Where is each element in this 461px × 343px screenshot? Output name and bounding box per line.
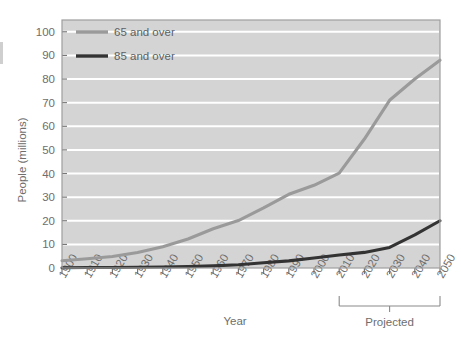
legend-label: 65 and over	[114, 26, 175, 38]
y-tick-label: 80	[42, 73, 55, 85]
y-tick-label: 60	[42, 120, 55, 132]
y-tick-label: 0	[49, 262, 55, 274]
y-tick-label: 90	[42, 49, 55, 61]
y-tick-label: 70	[42, 97, 55, 109]
page-edge-artifact	[0, 42, 3, 64]
projected-label: Projected	[365, 316, 414, 328]
legend-label: 85 and over	[114, 50, 175, 62]
chart-figure: 0102030405060708090100 19001910192019301…	[0, 0, 461, 343]
y-tick-label: 40	[42, 168, 55, 180]
y-tick-label: 30	[42, 191, 55, 203]
line-chart: 0102030405060708090100 19001910192019301…	[0, 0, 461, 343]
y-tick-label: 20	[42, 215, 55, 227]
x-axis-title: Year	[223, 315, 246, 327]
y-axis-title: People (millions)	[16, 117, 28, 202]
y-tick-label: 100	[36, 26, 55, 38]
plot-area: 0102030405060708090100 19001910192019301…	[36, 20, 458, 280]
y-tick-label: 10	[42, 238, 55, 250]
y-tick-label: 50	[42, 144, 55, 156]
